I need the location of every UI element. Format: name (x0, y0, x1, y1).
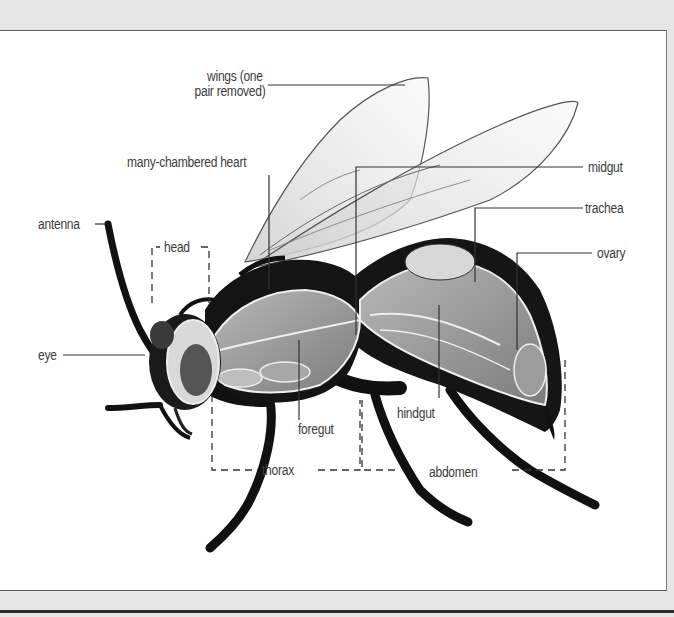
label-foregut: foregut (298, 422, 334, 436)
ovary-organ (514, 344, 546, 396)
label-abdomen: abdomen (429, 465, 477, 479)
insect-illustration (0, 0, 674, 617)
label-wings: wings (one (207, 69, 263, 83)
label-wings-line2: pair removed) (194, 84, 265, 98)
label-ovary: ovary (597, 246, 625, 260)
abdomen-segment (405, 244, 475, 280)
label-head: head (164, 240, 190, 254)
label-hindgut: hindgut (397, 406, 435, 420)
label-many-chambered-heart: many-chambered heart (127, 155, 246, 169)
label-midgut: midgut (588, 160, 623, 174)
eye-organ (150, 321, 174, 349)
wings (245, 78, 578, 268)
label-trachea: trachea (585, 201, 623, 215)
label-eye: eye (38, 348, 57, 362)
brain (180, 344, 212, 396)
page: wings (one pair removed) many-chambered … (0, 0, 674, 617)
label-antenna: antenna (38, 217, 80, 231)
label-thorax: thorax (262, 463, 294, 477)
